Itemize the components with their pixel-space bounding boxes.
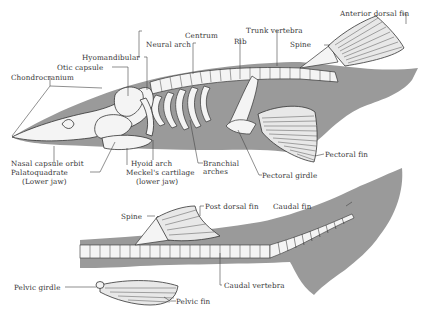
label-centrum: Centrum — [185, 32, 218, 39]
pelvic-fin — [96, 281, 178, 305]
lower-body-silhouette — [80, 168, 402, 295]
label-pectoral-girdle: Pectoral girdle — [262, 172, 317, 179]
pelvic-girdle-shape — [96, 282, 104, 289]
label-anterior-dorsal-fin: Anterior dorsal fin — [340, 10, 409, 17]
label-pelvic-fin: Pelvic fin — [176, 298, 210, 305]
label-nasal-capsule-orbit: Nasal capsule orbit — [11, 160, 84, 167]
label-rib: Rib — [234, 38, 247, 45]
label-palatoquadrate-sub: (Lower jaw) — [22, 178, 67, 185]
anterior-dorsal-fin — [300, 16, 404, 68]
label-pelvic-girdle: Pelvic girdle — [14, 284, 61, 291]
label-meckels-cartilage: Meckel's cartilage — [126, 169, 195, 176]
pectoral-fin — [258, 106, 317, 162]
label-spine-upper: Spine — [290, 41, 311, 48]
label-caudal-vertebra: Caudal vertebra — [224, 282, 285, 289]
label-palatoquadrate: Palatoquadrate — [11, 169, 68, 176]
label-trunk-vertebra: Trunk vertebra — [246, 27, 303, 34]
post-dorsal-fin — [135, 206, 220, 245]
label-pectoral-fin: Pectoral fin — [325, 151, 368, 158]
label-spine-lower: Spine — [121, 213, 142, 220]
label-hyoid-arch: Hyoid arch — [131, 160, 172, 167]
label-post-dorsal-fin: Post dorsal fin — [205, 203, 259, 210]
label-caudal-fin: Caudal fin — [273, 203, 311, 210]
label-meckels-sub: (lower jaw) — [136, 178, 178, 185]
label-otic-capsule: Otic capsule — [57, 64, 103, 71]
label-branchial-arches-sub: arches — [203, 168, 228, 175]
label-hyomandibular: Hyomandibular — [82, 54, 140, 61]
label-neural-arch: Neural arch — [146, 41, 191, 48]
label-chondrocranium: Chondrocranium — [11, 74, 74, 81]
